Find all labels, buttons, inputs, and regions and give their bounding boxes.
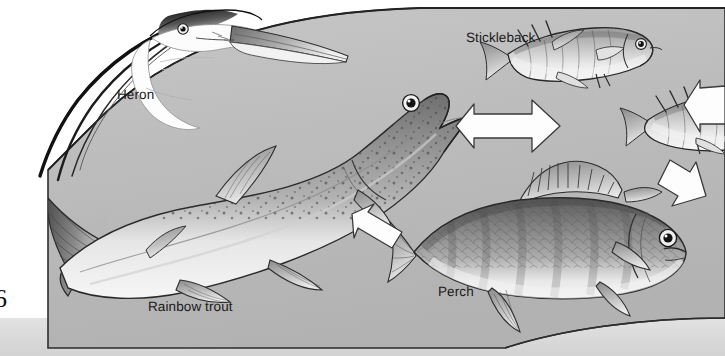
label-heron: Heron (117, 88, 154, 102)
label-stickleback: Stickleback (466, 31, 535, 45)
figure-illustration: 6 Heron Stickleback Rainbow trout Perch (0, 0, 725, 356)
label-rainbow-trout: Rainbow trout (148, 300, 233, 314)
illustration-canvas (0, 0, 725, 356)
label-perch: Perch (438, 285, 474, 299)
page-number: 6 (0, 286, 7, 312)
